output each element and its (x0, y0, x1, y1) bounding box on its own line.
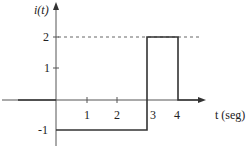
x-axis-label: t (seg) (215, 108, 245, 122)
y-axis-label: i(t) (34, 3, 49, 17)
y-tick-label-1: 1 (44, 61, 50, 75)
x-tick-label-2: 2 (114, 108, 120, 122)
y-axis-arrow-icon (53, 2, 59, 10)
x-tick-label-1: 1 (84, 108, 90, 122)
x-tick-label-3: 3 (150, 108, 156, 122)
y-tick-label-neg1: -1 (38, 123, 48, 137)
current-waveform-diagram: i(t) 2 1 -1 1 2 3 4 t (seg) (0, 0, 248, 146)
y-tick-label-2: 2 (43, 30, 49, 44)
x-tick-label-4: 4 (174, 108, 180, 122)
